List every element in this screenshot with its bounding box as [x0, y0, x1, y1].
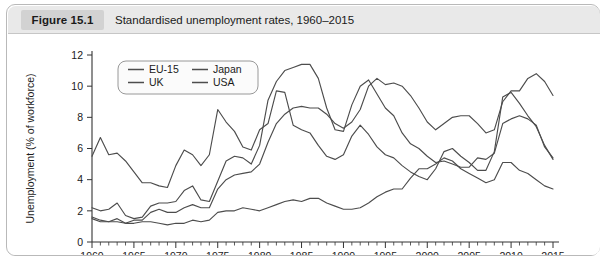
x-tick-label: 1965 [122, 250, 146, 255]
legend-label-usa: USA [213, 76, 235, 88]
y-tick-label: 12 [71, 49, 83, 61]
y-tick-label: 4 [77, 173, 83, 185]
x-tick-label: 1970 [164, 250, 188, 255]
x-tick-label: 2010 [499, 250, 523, 255]
y-tick-label: 8 [77, 111, 83, 123]
y-tick-label: 0 [77, 236, 83, 248]
figure-title: Standardised unemployment rates, 1960–20… [115, 6, 354, 34]
figure-header-bar: Figure 15.1 Standardised unemployment ra… [8, 6, 600, 34]
y-tick-label: 2 [77, 205, 83, 217]
x-tick-label: 2000 [416, 250, 440, 255]
legend-label-uk: UK [149, 76, 164, 88]
series-line-usa [92, 91, 553, 188]
series-line-japan [92, 158, 553, 225]
x-tick-label: 1990 [332, 250, 356, 255]
x-tick-label: 1980 [248, 250, 272, 255]
y-tick-label: 10 [71, 80, 83, 92]
source-note [8, 263, 608, 273]
unemployment-line-chart: 0246810121960196519701975198019851990199… [8, 34, 600, 255]
y-tick-label: 6 [77, 142, 83, 154]
x-tick-label: 2005 [458, 250, 482, 255]
figure-number-block: Figure 15.1 [21, 10, 104, 30]
x-tick-label: 1985 [290, 250, 314, 255]
legend-label-japan: Japan [213, 63, 242, 75]
x-tick-label: 1960 [80, 250, 104, 255]
x-tick-label: 1995 [374, 250, 398, 255]
x-tick-label: 2015 [541, 250, 565, 255]
figure-number-label: Figure 15.1 [21, 10, 104, 30]
y-axis-title: Unemployment (% of workforce) [24, 74, 36, 224]
x-tick-label: 1975 [206, 250, 230, 255]
legend-label-eu-15: EU-15 [149, 63, 179, 75]
figure-card: Figure 15.1 Standardised unemployment ra… [6, 4, 600, 256]
plot-area: 0246810121960196519701975198019851990199… [8, 34, 600, 255]
